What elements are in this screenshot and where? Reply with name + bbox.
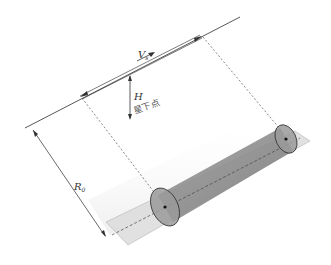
orbit-track-line [25, 17, 240, 128]
velocity-line-1 [80, 35, 200, 96]
height-arrow-top [128, 75, 132, 81]
range-dimension-line [33, 130, 105, 236]
velocity-line-2 [82, 38, 202, 99]
footprint-center-far [284, 137, 287, 140]
footprint-center-near [163, 205, 166, 208]
height-arrow-bottom [128, 114, 132, 120]
range-label: R0 [73, 181, 86, 193]
imaging-geometry-diagram: Vs H 星下点 R0 [0, 0, 331, 265]
projection-dashed-right [203, 37, 285, 135]
velocity-label: Vs [138, 49, 148, 61]
velocity-arrow-head [148, 52, 155, 57]
height-label: H [133, 91, 143, 102]
